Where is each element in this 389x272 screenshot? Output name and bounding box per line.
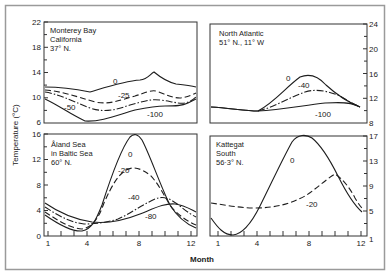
x-tick-label: 8 bbox=[307, 239, 312, 248]
curve-label: -40 bbox=[298, 81, 310, 90]
panel-title: 51° N., 11° W bbox=[219, 38, 265, 47]
y-axis-label: Temperature (°C) bbox=[11, 104, 20, 166]
figure: Temperature (°C) Month 22 18 14 10 6 Mon… bbox=[0, 0, 389, 272]
y-tick-label: 24 bbox=[369, 20, 378, 29]
panel-title: Åland Sea bbox=[51, 140, 86, 149]
panel-title: Monterey Bay bbox=[50, 26, 97, 35]
y-tick-label: 1 bbox=[369, 235, 374, 244]
curve-label: 0 bbox=[286, 74, 291, 83]
panel-title: Kattegat bbox=[216, 140, 245, 149]
y-tick-label: 12 bbox=[369, 94, 378, 103]
x-tick-label: 1 bbox=[46, 239, 51, 248]
panel-title: California bbox=[50, 35, 83, 44]
y-tick-label: 0 bbox=[37, 232, 42, 241]
curve-label: -20 bbox=[118, 166, 130, 175]
y-tick-label: 13 bbox=[369, 157, 378, 166]
curve-label: 0 bbox=[128, 150, 133, 159]
panel-title: 60° N. bbox=[51, 158, 72, 167]
y-tick-label: 22 bbox=[32, 18, 41, 27]
panel-title: South bbox=[216, 149, 236, 158]
x-tick-label: 4 bbox=[255, 239, 260, 248]
curve-label: -80 bbox=[145, 212, 157, 221]
curve-label: 0 bbox=[113, 77, 118, 86]
x-tick-label: 12 bbox=[357, 239, 366, 248]
y-tick-label: 4 bbox=[37, 206, 42, 215]
panel-title: in Baltic Sea bbox=[51, 149, 94, 158]
x-axis-label: Month bbox=[190, 255, 214, 264]
y-tick-label: 16 bbox=[369, 70, 378, 79]
panel-title: 37° N. bbox=[50, 44, 71, 53]
y-tick-label: 10 bbox=[32, 93, 41, 102]
x-tick-label: 12 bbox=[187, 239, 196, 248]
y-tick-label: 14 bbox=[32, 68, 41, 77]
y-tick-label: 8 bbox=[369, 119, 374, 128]
panel-title: 56·3° N. bbox=[216, 158, 244, 167]
y-tick-label: 5 bbox=[369, 207, 374, 216]
x-tick-label: 8 bbox=[137, 239, 142, 248]
curve-label: -100 bbox=[315, 110, 332, 119]
curve-label: -100 bbox=[147, 110, 164, 119]
panel-title: North Atlantic bbox=[219, 29, 264, 38]
y-tick-label: 8 bbox=[37, 181, 42, 190]
y-tick-label: 6 bbox=[37, 118, 42, 127]
curve-label: -40 bbox=[128, 193, 140, 202]
y-tick-label: 20 bbox=[369, 45, 378, 54]
y-tick-label: 17 bbox=[369, 132, 378, 141]
x-tick-label: 1 bbox=[216, 239, 221, 248]
curve-label: -25 bbox=[118, 91, 130, 100]
y-tick-label: 16 bbox=[32, 130, 41, 139]
x-tick-label: 4 bbox=[85, 239, 90, 248]
curve-label: 0 bbox=[290, 156, 295, 165]
y-tick-label: 12 bbox=[32, 155, 41, 164]
y-tick-label: 9 bbox=[369, 182, 374, 191]
curve-label: -20 bbox=[306, 200, 318, 209]
y-tick-label: 18 bbox=[32, 43, 41, 52]
curve-label: -50 bbox=[64, 103, 76, 112]
